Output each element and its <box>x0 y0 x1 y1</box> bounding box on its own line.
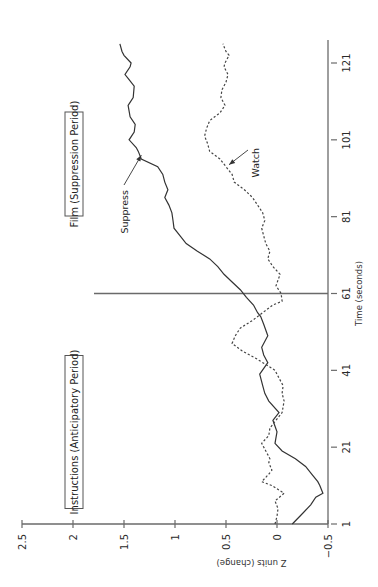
value-tick-label: 2.5 <box>17 534 28 550</box>
time-tick-label: 1 <box>341 521 352 527</box>
time-tick-label: 61 <box>341 287 352 300</box>
period-labels: Instructions (Anticipatory Period) Film … <box>65 101 83 515</box>
time-axis-label: Time (seconds) <box>354 261 364 327</box>
time-tick-label: 81 <box>341 210 352 223</box>
arrowhead-icon <box>229 159 235 165</box>
annotation-label-suppress: Suppress <box>119 190 130 234</box>
value-tick-label: 2 <box>68 534 79 540</box>
period-label-text: Film (Suppression Period) <box>69 101 80 228</box>
series-line-suppress <box>120 44 323 524</box>
period-label-instructions: Instructions (Anticipatory Period) <box>65 350 83 515</box>
value-tick-label: 0.5 <box>221 534 232 550</box>
time-ticks: 121416181101121 <box>331 53 352 527</box>
period-label-film: Film (Suppression Period) <box>65 101 83 228</box>
annotations: Suppress Watch <box>119 148 261 234</box>
value-ticks: −0.500.511.522.5 <box>17 520 334 558</box>
value-tick-label: 1.5 <box>119 534 130 550</box>
chart: −0.500.511.522.5 121416181101121 Z units… <box>0 0 378 587</box>
time-tick-label: 121 <box>341 53 352 72</box>
series-line-watch <box>205 44 285 524</box>
annotation-label-watch: Watch <box>250 148 261 178</box>
time-tick-label: 41 <box>341 364 352 377</box>
value-tick-label: 1 <box>170 534 181 540</box>
value-tick-label: −0.5 <box>323 534 334 558</box>
value-tick-label: 0 <box>272 534 283 540</box>
arrowhead-icon <box>136 155 141 161</box>
time-tick-label: 101 <box>341 130 352 149</box>
period-label-text: Instructions (Anticipatory Period) <box>69 350 80 515</box>
value-axis-label: Z units (change) <box>216 558 286 568</box>
time-tick-label: 21 <box>341 441 352 454</box>
